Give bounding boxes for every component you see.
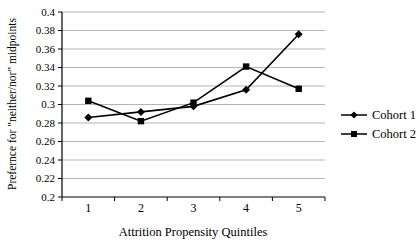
data-point-square	[190, 99, 196, 105]
y-axis-title: Prefernce for "neither/nor" midpoints	[6, 18, 19, 190]
y-tick-label: 0.28	[36, 117, 56, 129]
y-tick-label: 0.24	[36, 154, 56, 166]
y-tick-label: 0.26	[36, 135, 56, 147]
data-point-square	[296, 86, 302, 92]
y-tick-label: 0.2	[41, 191, 55, 203]
data-point-square	[138, 118, 144, 124]
x-tick-label: 2	[138, 201, 144, 215]
x-axis-title: Attrition Propensity Quintiles	[119, 225, 268, 239]
y-tick-label: 0.22	[36, 172, 55, 184]
x-tick-label: 3	[191, 201, 197, 215]
legend-item-cohort-1: Cohort 1	[341, 107, 416, 123]
legend-item-cohort-2: Cohort 2	[341, 126, 416, 142]
data-point-diamond	[137, 108, 145, 116]
legend-label-cohort-2: Cohort 2	[372, 127, 416, 142]
square-marker-icon	[341, 129, 367, 139]
x-tick-label: 1	[85, 201, 91, 215]
legend: Cohort 1 Cohort 2	[341, 107, 416, 142]
y-tick-label: 0.32	[36, 80, 55, 92]
x-tick-label: 4	[243, 201, 249, 215]
y-tick-label: 0.36	[36, 43, 56, 55]
y-tick-label: 0.4	[41, 6, 55, 18]
x-tick-label: 5	[296, 201, 302, 215]
y-tick-label: 0.38	[36, 24, 56, 36]
y-tick-label: 0.3	[41, 98, 55, 110]
chart-figure: 0.40.380.360.340.320.30.280.260.240.220.…	[0, 0, 420, 252]
data-point-square	[243, 63, 249, 69]
data-point-square	[85, 98, 91, 104]
y-tick-label: 0.34	[36, 61, 56, 73]
chart-canvas: 0.40.380.360.340.320.30.280.260.240.220.…	[36, 6, 325, 216]
legend-label-cohort-1: Cohort 1	[372, 108, 416, 123]
data-point-diamond	[84, 113, 92, 121]
series-line-cohort-2	[88, 67, 298, 122]
diamond-marker-icon	[341, 110, 367, 120]
